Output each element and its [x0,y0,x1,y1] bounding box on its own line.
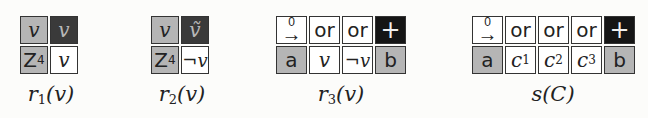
right-arrow-icon: → [478,24,498,44]
gadget-r2-grid: v ṽ Z4 ¬v [151,16,213,74]
cell-r2-bottom-left: Z4 [151,46,179,74]
cell-r3-or-2: or [342,16,373,44]
cell-s-c1: c1 [505,46,536,74]
gadget-r1: v v Z4 v r1(v) [20,16,82,74]
cell-s-c2: c2 [538,46,569,74]
cell-r3-plus: + [375,16,406,44]
cell-r1-top-right: v [50,16,78,44]
plus-icon: + [609,16,629,44]
gadget-r3: 0→ or or + a v ¬v b r3(v) [276,16,406,74]
cell-s-or-1: or [505,16,536,44]
gadget-r3-grid: 0→ or or + a v ¬v b [276,16,406,74]
gadget-r1-grid: v v Z4 v [20,16,82,74]
gadget-r2-label: r2(v) [159,82,206,107]
cell-s-or-2: or [538,16,569,44]
cell-s-or-3: or [571,16,602,44]
cell-s-arrow: 0→ [472,16,503,44]
gadget-s: 0→ or or or + a c1 c2 c3 b s(C) [472,16,634,74]
cell-r3-or-1: or [309,16,340,44]
cell-r1-bottom-left: Z4 [20,46,48,74]
cell-r3-arrow: 0→ [276,16,307,44]
gadget-s-label: s(C) [531,82,574,107]
cell-r3-v: v [309,46,340,74]
gadget-r1-label: r1(v) [28,82,75,107]
cell-r2-top-right: ṽ [181,16,209,44]
right-arrow-icon: → [282,24,302,44]
gadget-r2: v ṽ Z4 ¬v r2(v) [151,16,213,74]
plus-icon: + [380,16,400,44]
cell-r1-top-left: v [20,16,48,44]
cell-s-c3: c3 [571,46,602,74]
gadget-s-grid: 0→ or or or + a c1 c2 c3 b [472,16,634,74]
cell-r2-bottom-right: ¬v [181,46,209,74]
cell-r3-not-v: ¬v [342,46,373,74]
cell-r3-a: a [276,46,307,74]
cell-r2-top-left: v [151,16,179,44]
cell-s-plus: + [604,16,635,44]
cell-s-b: b [604,46,635,74]
gadget-r3-label: r3(v) [318,82,365,107]
cell-r3-b: b [375,46,406,74]
cell-r1-bottom-right: v [50,46,78,74]
cell-s-a: a [472,46,503,74]
